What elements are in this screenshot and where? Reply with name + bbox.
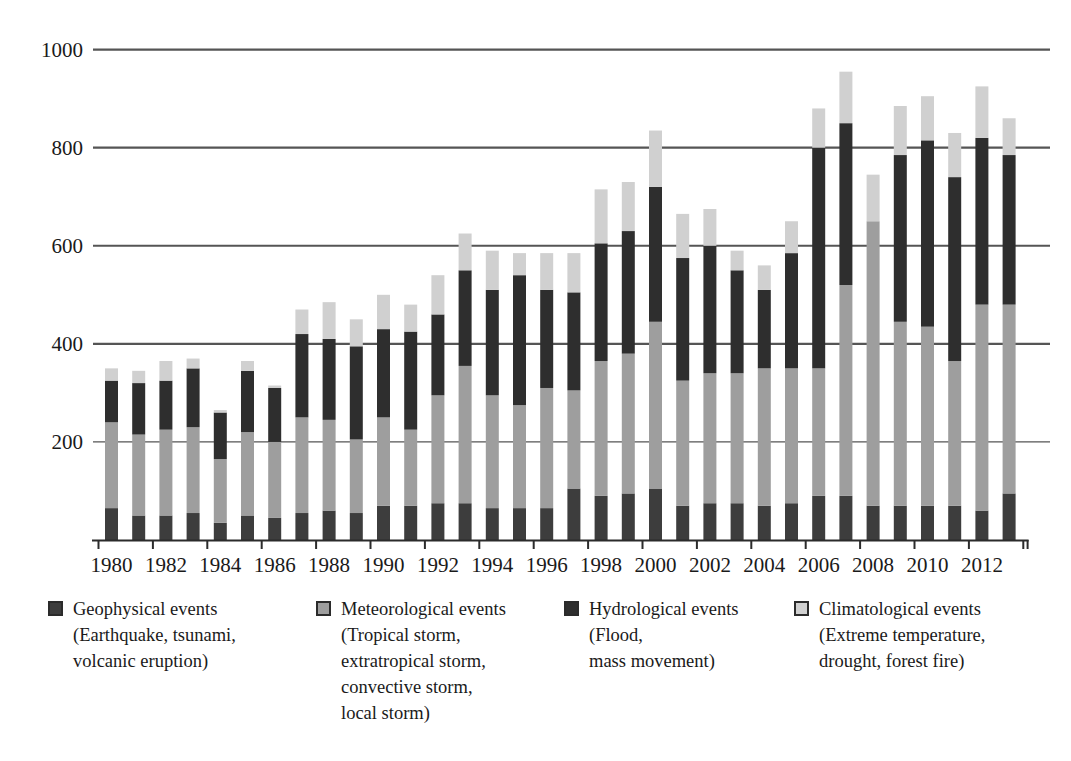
chart-legend: Geophysical events (Earthquake, tsunami,…	[0, 596, 1071, 761]
bar-segment	[459, 270, 472, 366]
bar-2010	[921, 96, 934, 540]
legend-item-hydrological: Hydrological events (Flood, mass movemen…	[564, 596, 794, 674]
bar-segment	[731, 270, 744, 373]
x-axis-tick-label: 2008	[852, 553, 894, 577]
bar-segment	[540, 388, 553, 508]
bar-segment	[975, 138, 988, 305]
bar-segment	[323, 511, 336, 540]
bar-segment	[921, 506, 934, 540]
bar-segment	[812, 496, 825, 540]
legend-label-meteorological: Meteorological events (Tropical storm, e…	[341, 596, 506, 726]
bar-1999	[622, 182, 635, 540]
bar-segment	[595, 496, 608, 540]
bar-segment	[921, 140, 934, 326]
bar-2013	[1003, 118, 1016, 540]
bar-segment	[975, 305, 988, 511]
x-axis-tick-label: 1998	[580, 553, 622, 577]
bar-segment	[703, 373, 716, 503]
bar-segment	[839, 496, 852, 540]
bar-segment	[214, 410, 227, 412]
bar-segment	[1003, 493, 1016, 540]
bar-2009	[894, 106, 907, 540]
bar-1996	[540, 253, 553, 540]
legend-swatch-climatological	[794, 601, 809, 616]
bar-segment	[622, 182, 635, 231]
bar-segment	[159, 515, 172, 540]
bar-segment	[431, 503, 444, 540]
bar-segment	[540, 290, 553, 388]
bar-segment	[758, 506, 771, 540]
bar-1981	[132, 371, 145, 540]
bar-1989	[350, 319, 363, 540]
legend-label-climatological: Climatological events (Extreme temperatu…	[819, 596, 985, 674]
bar-segment	[105, 508, 118, 540]
plot-area: 2004006008001000198019821984198619881990…	[0, 0, 1071, 580]
bar-segment	[295, 417, 308, 513]
y-axis-tick-label: 800	[52, 136, 84, 160]
legend-label-geophysical: Geophysical events (Earthquake, tsunami,…	[73, 596, 236, 674]
bar-segment	[268, 388, 281, 442]
x-axis-tick-label: 2002	[689, 553, 731, 577]
bar-segment	[839, 72, 852, 123]
bar-segment	[622, 493, 635, 540]
bar-segment	[703, 209, 716, 246]
bar-segment	[758, 290, 771, 368]
bar-1983	[187, 359, 200, 540]
bar-segment	[649, 131, 662, 187]
bar-segment	[785, 368, 798, 503]
bar-segment	[486, 251, 499, 290]
x-axis-tick-label: 1992	[417, 553, 459, 577]
legend-item-geophysical: Geophysical events (Earthquake, tsunami,…	[48, 596, 316, 674]
bar-2002	[703, 209, 716, 540]
legend-item-climatological: Climatological events (Extreme temperatu…	[794, 596, 1054, 674]
bar-segment	[567, 253, 580, 292]
bar-2007	[839, 72, 852, 540]
bar-2003	[731, 251, 744, 540]
bar-segment	[540, 253, 553, 290]
bar-1986	[268, 386, 281, 540]
legend-swatch-geophysical	[48, 601, 63, 616]
bar-segment	[486, 508, 499, 540]
x-axis-tick-label: 2010	[907, 553, 949, 577]
bar-2008	[867, 175, 880, 540]
bar-segment	[649, 489, 662, 540]
legend-swatch-meteorological	[316, 601, 331, 616]
bar-1984	[214, 410, 227, 540]
bar-segment	[703, 246, 716, 374]
bar-segment	[676, 381, 689, 506]
bar-segment	[295, 310, 308, 335]
bar-segment	[948, 133, 961, 177]
bar-segment	[187, 513, 200, 540]
bar-segment	[350, 439, 363, 513]
x-axis-tick-label: 1988	[308, 553, 350, 577]
bar-1987	[295, 310, 308, 540]
bar-segment	[377, 295, 390, 329]
bar-1993	[459, 234, 472, 540]
stacked-bar-chart: 2004006008001000198019821984198619881990…	[0, 0, 1071, 580]
bar-segment	[948, 506, 961, 540]
x-axis-tick-label: 1994	[471, 553, 514, 577]
bar-2012	[975, 86, 988, 540]
bar-1991	[404, 305, 417, 540]
bar-segment	[241, 432, 254, 515]
x-axis-tick-label: 2012	[961, 553, 1003, 577]
bar-segment	[567, 489, 580, 540]
bar-segment	[132, 435, 145, 516]
bar-1998	[595, 189, 608, 540]
y-axis-tick-label: 200	[52, 430, 84, 454]
bar-segment	[839, 123, 852, 285]
bar-segment	[187, 427, 200, 513]
bar-1985	[241, 361, 254, 540]
bar-segment	[105, 381, 118, 423]
bar-segment	[758, 368, 771, 505]
bar-segment	[486, 290, 499, 395]
bar-segment	[595, 243, 608, 361]
bar-segment	[867, 506, 880, 540]
bar-segment	[595, 361, 608, 496]
y-axis-tick-label: 1000	[41, 38, 83, 62]
bar-segment	[295, 513, 308, 540]
bar-2006	[812, 108, 825, 540]
bar-segment	[159, 430, 172, 516]
x-axis-tick-label: 2004	[743, 553, 786, 577]
bar-segment	[513, 253, 526, 275]
